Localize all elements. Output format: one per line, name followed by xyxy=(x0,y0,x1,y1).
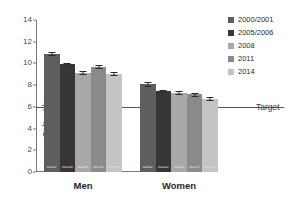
bar-sample-size-label: N=234 xyxy=(75,166,91,170)
legend-swatch-icon xyxy=(228,17,234,23)
y-axis-tick-mark xyxy=(33,20,36,21)
bar[interactable]: N=198 xyxy=(106,74,122,172)
bar-sample-size-label: N=186 xyxy=(60,166,76,170)
legend-item[interactable]: 2005/2006 xyxy=(228,29,273,37)
bar[interactable]: N=292 xyxy=(202,99,218,172)
bar-slot: N=297 xyxy=(187,20,203,172)
legend-item-label: 2008 xyxy=(238,42,255,50)
legend-item-label: 2005/2006 xyxy=(238,29,273,37)
error-bar-cap-top xyxy=(160,90,167,91)
y-axis-tick-mark xyxy=(33,128,36,129)
legend-swatch-icon xyxy=(228,43,234,49)
legend-swatch-icon xyxy=(228,69,234,75)
bar-slot: N=292 xyxy=(202,20,218,172)
legend-item[interactable]: 2000/2001 xyxy=(228,16,273,24)
bar[interactable]: N=297 xyxy=(187,94,203,172)
bar[interactable]: N=234 xyxy=(75,73,91,172)
error-bar-cap-top xyxy=(191,93,198,94)
bar-slot: N=186 xyxy=(60,20,76,172)
bar-slot: N=242 xyxy=(156,20,172,172)
error-bar-cap-top xyxy=(64,63,71,64)
error-bar-cap-top xyxy=(175,91,182,92)
bar-slot: n=682 xyxy=(140,20,156,172)
bar-slot: N=234 xyxy=(75,20,91,172)
bar-sample-size-label: N=198 xyxy=(171,166,187,170)
bar[interactable]: N=259 xyxy=(91,67,107,172)
y-axis-tick-mark xyxy=(33,41,36,42)
bar-group: n=567N=186N=234N=259N=198Men xyxy=(44,20,122,172)
error-bar-cap-top xyxy=(207,97,214,98)
x-axis-category-label: Women xyxy=(140,180,218,191)
error-bar-cap-top xyxy=(111,72,118,73)
bar[interactable]: n=567 xyxy=(44,54,60,172)
error-bar-cap-top xyxy=(48,52,55,53)
error-bar-cap-bottom xyxy=(48,55,55,56)
error-bar-cap-top xyxy=(95,65,102,66)
bar-sample-size-label: N=292 xyxy=(202,166,218,170)
bar[interactable]: N=186 xyxy=(60,64,76,172)
error-bar-cap-bottom xyxy=(95,68,102,69)
error-bar-cap-bottom xyxy=(191,96,198,97)
y-axis-tick-mark xyxy=(33,150,36,151)
y-axis-tick-mark xyxy=(33,63,36,64)
bar-sample-size-label: N=259 xyxy=(91,166,107,170)
bar-sample-size-label: N=297 xyxy=(187,166,203,170)
legend-item-label: 2014 xyxy=(238,68,255,76)
bar-sample-size-label: n=567 xyxy=(44,166,60,170)
bar-slot: N=259 xyxy=(91,20,107,172)
legend: 2000/20012005/2006200820112014 xyxy=(228,16,273,76)
bar-group: n=682N=242N=198N=297N=292Women xyxy=(140,20,218,172)
error-bar-cap-bottom xyxy=(175,94,182,95)
legend-item-label: 2000/2001 xyxy=(238,16,273,24)
x-axis-category-label: Men xyxy=(44,180,122,191)
legend-item[interactable]: 2011 xyxy=(228,55,273,63)
error-bar-cap-bottom xyxy=(79,74,86,75)
target-reference-label: Target xyxy=(256,102,280,112)
bar-slot: n=567 xyxy=(44,20,60,172)
error-bar-cap-bottom xyxy=(64,65,71,66)
chart-container: 02468101214 Salt, g/day Target n=567N=18… xyxy=(0,0,301,208)
bar[interactable]: N=198 xyxy=(171,93,187,172)
legend-swatch-icon xyxy=(228,56,234,62)
y-axis-tick-mark xyxy=(33,172,36,173)
legend-swatch-icon xyxy=(228,30,234,36)
bar-sample-size-label: N=198 xyxy=(106,166,122,170)
bar-sample-size-label: N=242 xyxy=(156,166,172,170)
bar[interactable]: n=682 xyxy=(140,84,156,172)
legend-item[interactable]: 2014 xyxy=(228,68,273,76)
error-bar-cap-bottom xyxy=(111,75,118,76)
bar[interactable]: N=242 xyxy=(156,91,172,172)
bar-slot: N=198 xyxy=(171,20,187,172)
error-bar-cap-bottom xyxy=(160,92,167,93)
error-bar-cap-bottom xyxy=(207,100,214,101)
error-bar-cap-bottom xyxy=(144,86,151,87)
error-bar-cap-top xyxy=(79,71,86,72)
legend-item[interactable]: 2008 xyxy=(228,42,273,50)
plot-area: 02468101214 Salt, g/day Target n=567N=18… xyxy=(36,20,216,172)
bar-sample-size-label: n=682 xyxy=(140,166,156,170)
error-bar-cap-top xyxy=(144,82,151,83)
y-axis-tick-mark xyxy=(33,85,36,86)
legend-item-label: 2011 xyxy=(238,55,254,63)
bar-slot: N=198 xyxy=(106,20,122,172)
